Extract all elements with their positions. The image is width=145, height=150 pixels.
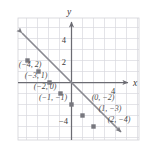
point-label--2-0: (−2, 0) — [34, 82, 57, 91]
point-label-2--4: (2, −4) — [108, 115, 131, 124]
point-label--1--1: (−1, −1) — [39, 93, 67, 102]
coordinate-graph-figure: y x 4 2 −4 4 (−4, 2) (−3, 1) (−2, 0) (−1… — [0, 0, 145, 150]
point-label-1--3: (1, −3) — [99, 104, 122, 113]
y-axis-label: y — [66, 7, 72, 17]
point-label--3-1: (−3, 1) — [25, 71, 48, 80]
graph-canvas: y x 4 2 −4 4 (−4, 2) (−3, 1) (−2, 0) (−1… — [0, 0, 145, 150]
y-tick-label-minus-4: −4 — [59, 116, 69, 126]
point-marker-0--2 — [69, 102, 73, 106]
point-label-0--2: (0, −2) — [92, 93, 115, 102]
x-axis-label: x — [132, 78, 138, 88]
point-label--4-2: (−4, 2) — [19, 60, 42, 69]
point-marker-1--3 — [80, 113, 84, 117]
y-tick-label-2: 2 — [62, 57, 66, 67]
point-marker-2--4 — [91, 124, 95, 128]
